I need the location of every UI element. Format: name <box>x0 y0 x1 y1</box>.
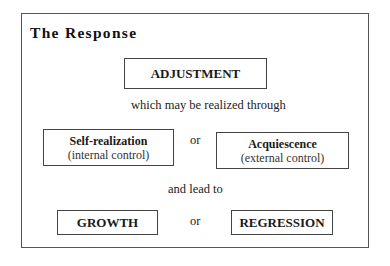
or-connector-2: or <box>190 214 200 229</box>
acquiescence-box: Acquiescence (external control) <box>216 132 349 169</box>
or-connector-1: or <box>190 133 200 148</box>
acquiescence-sublabel: (external control) <box>241 151 325 165</box>
self-realization-label: Self-realization <box>70 134 148 148</box>
adjustment-box: ADJUSTMENT <box>124 58 267 89</box>
acquiescence-label: Acquiescence <box>248 137 317 151</box>
self-realization-box: Self-realization (internal control) <box>43 129 174 166</box>
regression-label: REGRESSION <box>239 215 324 231</box>
lead-to-text: and lead to <box>168 182 223 197</box>
self-realization-sublabel: (internal control) <box>68 148 150 162</box>
adjustment-label: ADJUSTMENT <box>151 66 241 82</box>
diagram-title: The Response <box>30 24 137 42</box>
realized-through-text: which may be realized through <box>131 98 286 113</box>
regression-box: REGRESSION <box>231 210 333 235</box>
growth-label: GROWTH <box>77 215 138 231</box>
growth-box: GROWTH <box>57 210 158 235</box>
